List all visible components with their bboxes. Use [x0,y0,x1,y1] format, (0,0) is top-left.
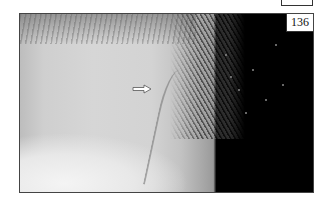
page-marker-box [281,0,313,6]
background-speck [225,54,227,56]
background-speck [230,76,232,78]
background-speck [252,69,254,71]
background-speck [275,44,277,46]
background-speck [265,99,267,101]
clinical-photo: 136 [19,13,314,193]
figure-page: 136 [0,0,326,203]
figure-number-label: 136 [286,14,313,32]
arrow-right-icon [132,84,152,94]
background-speck [282,84,284,86]
background-speck [245,112,247,114]
background-speck [238,89,240,91]
